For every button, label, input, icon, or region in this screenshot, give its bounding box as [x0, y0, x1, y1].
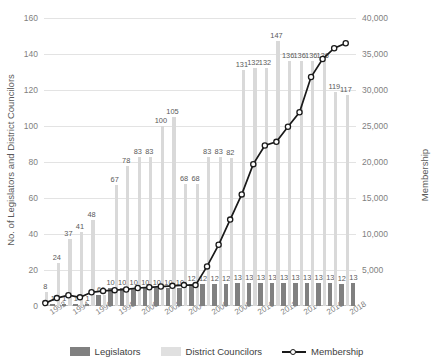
bar-legislators — [224, 284, 229, 306]
y-axis-left-tick: 20 — [12, 265, 38, 275]
chart-column: 10510 — [171, 18, 183, 306]
bar-district-councilors — [265, 68, 268, 306]
y-axis-right-tick: 40,000 — [362, 13, 404, 23]
data-label-district-councilors: 105 — [166, 107, 178, 116]
bar-legislators — [212, 284, 217, 306]
legend-label-district-councilors: District Councilors — [186, 346, 263, 357]
chart-column: 13613 — [287, 18, 299, 306]
legend-swatch-district-councilors — [161, 347, 181, 356]
chart-column: 411 — [79, 18, 91, 306]
bar-district-councilors — [253, 68, 256, 306]
y-axis-left-tick: 140 — [12, 49, 38, 59]
bar-district-councilors — [207, 157, 210, 306]
y-axis-right-tick: 5,000 — [362, 265, 404, 275]
bar-district-councilors — [242, 70, 245, 306]
data-label-district-councilors: 119 — [328, 82, 340, 91]
plot-area: 8119922413711994411486199661067101998781… — [44, 18, 356, 306]
chart-legend: Legislators District Councilors Membersh… — [0, 346, 433, 357]
y-axis-left-tick: 80 — [12, 157, 38, 167]
bar-legislators — [328, 283, 333, 306]
data-label-district-councilors: 136 — [317, 51, 329, 60]
bar-legislators — [247, 283, 252, 306]
y-axis-left-tick: 40 — [12, 229, 38, 239]
bar-district-councilors — [184, 184, 187, 306]
data-label-district-councilors: 132 — [259, 58, 271, 67]
bar-legislators — [351, 283, 356, 306]
data-label-legislators: 13 — [349, 273, 357, 282]
data-label-district-councilors: 131 — [236, 60, 248, 69]
bar-legislators — [339, 284, 344, 306]
bar-legislators — [131, 288, 136, 306]
data-label-district-councilors: 136 — [305, 51, 317, 60]
data-label-legislators: 1 — [62, 294, 66, 303]
y-axis-left-tick: 60 — [12, 193, 38, 203]
bar-district-councilors — [230, 158, 233, 306]
bar-legislators — [108, 288, 113, 306]
legend-label-legislators: Legislators — [95, 346, 141, 357]
bar-district-councilors — [45, 292, 48, 306]
data-label-district-councilors: 117 — [340, 85, 352, 94]
bar-legislators — [270, 283, 275, 306]
bar-district-councilors — [57, 263, 60, 306]
data-label-district-councilors: 136 — [293, 51, 305, 60]
data-label-district-councilors: 37 — [64, 229, 72, 238]
bar-legislators — [281, 283, 286, 306]
chart-column: 7810 — [125, 18, 137, 306]
bar-district-councilors — [80, 232, 83, 306]
chart-column: 136132014 — [298, 18, 310, 306]
chart-column: 8312 — [217, 18, 229, 306]
data-label-district-councilors: 83 — [145, 147, 153, 156]
y-axis-right-tick: 30,000 — [362, 85, 404, 95]
data-label-district-councilors: 132 — [247, 58, 259, 67]
legend-item-legislators: Legislators — [70, 346, 141, 357]
bar-legislators — [200, 284, 205, 306]
chart-column: 83122006 — [206, 18, 218, 306]
data-label-district-councilors: 24 — [53, 253, 61, 262]
chart-column: 241 — [56, 18, 68, 306]
bar-legislators — [189, 284, 194, 306]
bar-district-councilors — [68, 239, 71, 306]
data-label-district-councilors: 68 — [180, 174, 188, 183]
chart-column: 100102002 — [160, 18, 172, 306]
bar-district-councilors — [91, 220, 94, 306]
data-label-legislators: 1 — [74, 294, 78, 303]
y-axis-left-tick: 160 — [12, 13, 38, 23]
data-label-district-councilors: 136 — [282, 51, 294, 60]
legend-label-membership: Membership — [311, 346, 363, 357]
legend-swatch-membership — [282, 347, 306, 356]
y-axis-left-tick: 120 — [12, 85, 38, 95]
y-axis-right-tick: 25,000 — [362, 121, 404, 131]
data-label-legislators: 1 — [51, 294, 55, 303]
bar-district-councilors — [323, 61, 326, 306]
chart-column: 117132018 — [345, 18, 357, 306]
data-label-district-councilors: 83 — [203, 147, 211, 156]
y-axis-right-tick: 35,000 — [362, 49, 404, 59]
bar-legislators — [62, 304, 67, 306]
y-axis-right-title: Membership — [419, 149, 430, 201]
data-label-legislators: 1 — [85, 294, 89, 303]
bar-legislators — [235, 283, 240, 306]
chart-column: 4861996 — [90, 18, 102, 306]
chart-column: 6812 — [194, 18, 206, 306]
chart-column: 13613 — [310, 18, 322, 306]
legend-swatch-legislators — [70, 347, 90, 356]
bar-legislators — [305, 283, 310, 306]
data-label-district-councilors: 100 — [155, 116, 167, 125]
chart-column: 147132012 — [275, 18, 287, 306]
bar-district-councilors — [115, 185, 118, 306]
data-label-district-councilors: 6 — [101, 285, 105, 294]
bar-district-councilors — [311, 61, 314, 306]
bar-district-councilors — [219, 157, 222, 306]
chart-column: 3711994 — [67, 18, 79, 306]
chart-container: No. of Legislators and District Councilo… — [0, 0, 433, 363]
legend-item-district-councilors: District Councilors — [161, 346, 263, 357]
bar-district-councilors — [300, 61, 303, 306]
chart-column: 11912 — [333, 18, 345, 306]
bar-district-councilors — [288, 61, 291, 306]
chart-column: 68122004 — [183, 18, 195, 306]
chart-column: 811992 — [44, 18, 56, 306]
bar-legislators — [85, 304, 90, 306]
y-axis-right-tick: - — [362, 301, 404, 311]
chart-column: 136132016 — [322, 18, 334, 306]
bar-legislators — [177, 288, 182, 306]
